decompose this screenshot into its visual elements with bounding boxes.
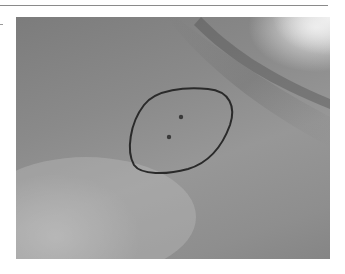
margin-tick	[0, 24, 3, 25]
puncture-dot-2	[167, 135, 171, 139]
photo-overlay	[16, 17, 330, 259]
document-page: Grayscale clinical photograph of skin wi…	[0, 0, 345, 274]
top-horizontal-rule	[0, 5, 328, 6]
clinical-photo	[16, 17, 330, 259]
puncture-dot-1	[179, 115, 183, 119]
